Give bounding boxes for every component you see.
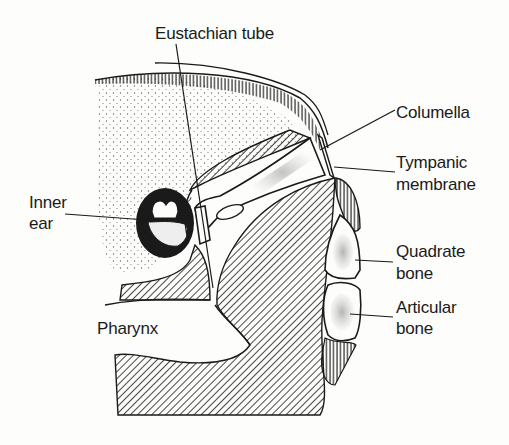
label-eustachian-tube: Eustachian tube bbox=[155, 23, 274, 44]
label-quadrate-line1: Quadrate bbox=[396, 241, 465, 262]
ear-diagram bbox=[0, 0, 509, 445]
label-articular-line1: Articular bbox=[396, 297, 457, 318]
label-columella: Columella bbox=[396, 102, 470, 123]
label-quadrate-line2: bone bbox=[396, 263, 433, 284]
label-inner-ear-line1: Inner bbox=[29, 192, 67, 213]
label-tympanic-line2: membrane bbox=[396, 174, 476, 195]
tympanic-membrane-leader bbox=[334, 167, 395, 172]
label-inner-ear-line2: ear bbox=[29, 213, 53, 234]
label-tympanic-line1: Tympanic bbox=[396, 152, 467, 173]
columella-leader bbox=[320, 110, 395, 150]
label-articular-line2: bone bbox=[396, 318, 433, 339]
articular-bone bbox=[322, 283, 361, 385]
quadrate-bone-leader bbox=[355, 260, 393, 262]
label-pharynx: Pharynx bbox=[97, 318, 158, 339]
